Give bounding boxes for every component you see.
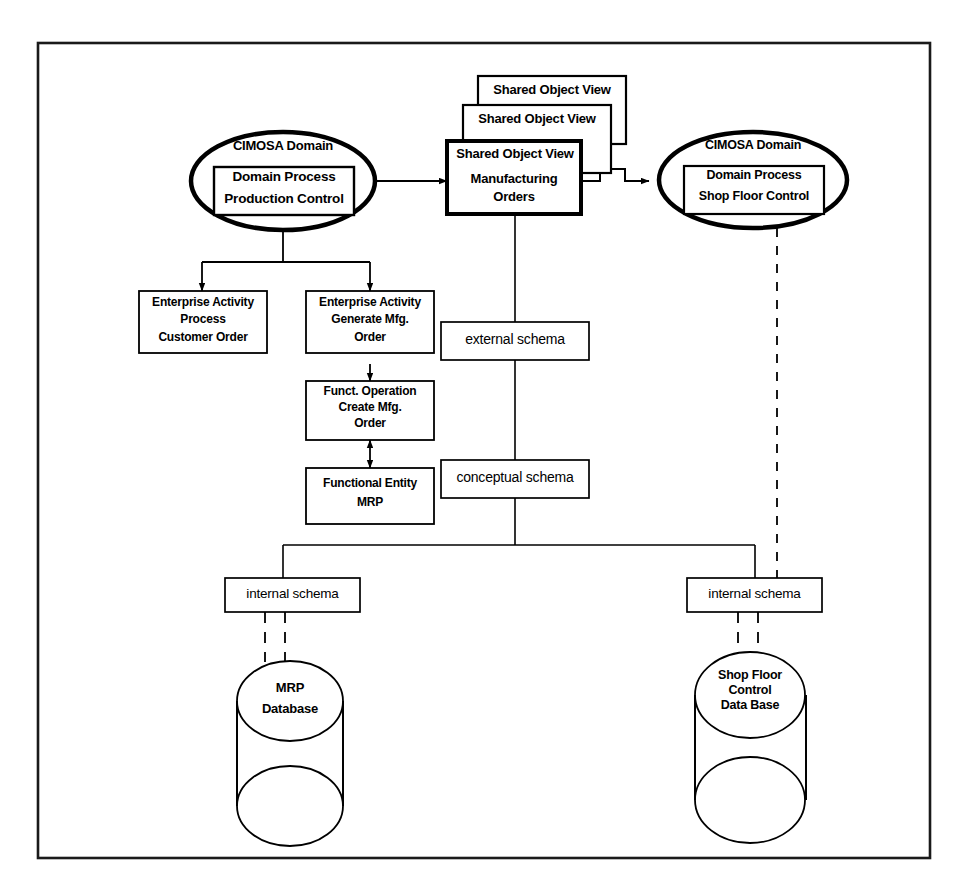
node-shop-floor-control-database[interactable] <box>695 652 806 843</box>
node-functional-entity-mrp[interactable] <box>306 468 434 524</box>
diagram-vector-layer <box>0 0 963 890</box>
connector-internal-schema-left-to-mrp-database <box>265 612 285 662</box>
node-shop-floor-domain[interactable] <box>659 132 847 228</box>
node-mrp-database[interactable] <box>237 661 343 846</box>
diagram-canvas: CIMOSA Domain Domain Process Production … <box>0 0 963 890</box>
connector-internal-schema-right-to-shop-floor-database <box>738 612 758 652</box>
node-internal-schema-label-left[interactable] <box>225 578 360 612</box>
node-enterprise-activity-generate-mfg-order[interactable] <box>306 291 434 353</box>
connector-schema-spine-fork-to-internal-schemas <box>283 545 755 578</box>
node-shared-object-view-front[interactable] <box>447 141 581 214</box>
node-funct-operation-create-mfg-order[interactable] <box>306 381 434 440</box>
node-conceptual-schema-label[interactable] <box>441 460 589 498</box>
node-internal-schema-label-right[interactable] <box>687 578 822 612</box>
node-external-schema-label[interactable] <box>441 322 589 360</box>
node-production-control-domain[interactable] <box>191 132 375 230</box>
node-enterprise-activity-customer-order[interactable] <box>139 291 267 353</box>
